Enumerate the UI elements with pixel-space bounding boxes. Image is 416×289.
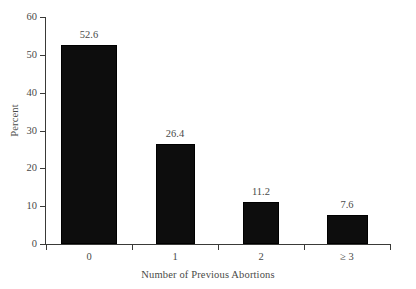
y-axis-tick-label: 0 (0, 239, 37, 250)
bar (243, 202, 279, 244)
bar-value-label: 52.6 (59, 30, 119, 41)
y-axis-tick-label: 20 (0, 163, 37, 174)
x-axis-tick (390, 245, 391, 250)
bar (327, 215, 368, 244)
y-axis-tick (40, 131, 45, 132)
x-axis-category-label: 0 (59, 252, 119, 263)
y-axis-tick (40, 93, 45, 94)
x-axis-category-label: ≥ 3 (317, 252, 377, 263)
y-axis-tick-label: 50 (0, 50, 37, 61)
y-axis-line (45, 17, 46, 245)
x-axis-tick (46, 245, 47, 250)
x-axis-category-label: 1 (145, 252, 205, 263)
bar (156, 144, 195, 244)
bar-value-label: 7.6 (317, 200, 377, 211)
x-axis-tick (218, 245, 219, 250)
x-axis-tick (132, 245, 133, 250)
y-axis-tick (40, 168, 45, 169)
y-axis-tick (40, 55, 45, 56)
y-axis-tick-label: 60 (0, 12, 37, 23)
x-axis-title: Number of Previous Abortions (0, 269, 416, 280)
y-axis-tick (40, 206, 45, 207)
y-axis-tick (40, 17, 45, 18)
bar-value-label: 11.2 (231, 187, 291, 198)
y-axis-title: Percent (9, 91, 20, 151)
x-axis-tick (304, 245, 305, 250)
y-axis-tick-label: 10 (0, 201, 37, 212)
y-axis-tick (40, 244, 45, 245)
bar-chart-figure: 010203040506052.6026.4111.227.6≥ 3 Perce… (0, 0, 416, 289)
bar-value-label: 26.4 (145, 129, 205, 140)
x-axis-category-label: 2 (231, 252, 291, 263)
bar (61, 45, 117, 244)
